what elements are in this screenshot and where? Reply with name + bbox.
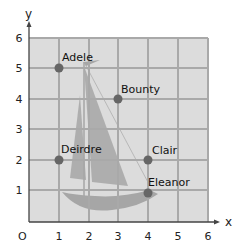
svg-text:Clair: Clair [152, 144, 178, 157]
point-eleanor [144, 189, 153, 198]
y-tick-labels: 1 2 3 4 5 6 [16, 32, 23, 197]
point-deirdre [55, 156, 64, 165]
svg-text:5: 5 [16, 62, 23, 75]
x-axis-label: x [225, 215, 232, 229]
svg-text:2: 2 [16, 154, 23, 167]
point-adele [55, 64, 64, 73]
svg-text:1: 1 [16, 184, 23, 197]
coordinate-grid-chart: y x O 1 2 3 4 5 6 1 2 3 4 5 6 Adele Boun… [0, 0, 243, 250]
svg-text:Bounty: Bounty [121, 83, 161, 96]
svg-text:1: 1 [56, 230, 63, 243]
svg-text:3: 3 [115, 230, 122, 243]
svg-text:4: 4 [16, 93, 23, 106]
svg-text:3: 3 [16, 123, 23, 136]
origin-label: O [18, 230, 27, 243]
svg-text:Adele: Adele [62, 51, 93, 64]
svg-text:2: 2 [86, 230, 93, 243]
svg-text:5: 5 [175, 230, 182, 243]
x-tick-labels: 1 2 3 4 5 6 [56, 230, 212, 243]
svg-text:6: 6 [205, 230, 212, 243]
svg-text:Eleanor: Eleanor [148, 176, 190, 189]
svg-text:4: 4 [145, 230, 152, 243]
svg-text:Deirdre: Deirdre [61, 143, 102, 156]
svg-text:6: 6 [16, 32, 23, 45]
y-axis-label: y [25, 7, 32, 21]
